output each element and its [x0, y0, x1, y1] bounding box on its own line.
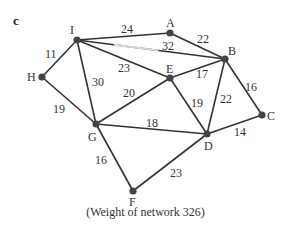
graph-canvas [0, 0, 291, 230]
node-label-E: E [166, 63, 173, 75]
edge-E-G [96, 78, 170, 124]
edge-weight-B-D: 22 [220, 93, 232, 105]
node-F [129, 187, 136, 194]
edge-weight-I-H: 11 [45, 48, 57, 60]
node-label-C: C [267, 110, 275, 122]
edge-weight-E-G: 20 [123, 87, 135, 99]
edge-weight-B-C: 16 [245, 81, 257, 93]
node-G [92, 120, 99, 127]
network-weight-caption: (Weight of network 326) [0, 205, 291, 220]
edge-weight-E-D: 19 [191, 97, 203, 109]
node-label-B: B [228, 45, 236, 57]
edge-weight-E-B: 17 [196, 68, 208, 80]
edge-F-D [133, 134, 207, 191]
node-label-G: G [88, 131, 97, 143]
edge-weight-I-G: 30 [92, 76, 104, 88]
edge-weight-D-C: 14 [234, 126, 246, 138]
node-A [166, 29, 173, 36]
edge-faded-segment [114, 45, 158, 51]
edge-weight-F-D: 23 [170, 167, 182, 179]
edge-weight-I-B: 32 [162, 40, 174, 52]
network-diagram: c 24223223113017201922161918141623IABEHC… [0, 0, 291, 230]
edge-H-G [42, 77, 96, 124]
node-label-A: A [166, 17, 175, 29]
node-H [38, 73, 45, 80]
edge-weight-A-B: 22 [197, 33, 209, 45]
edge-weight-G-F: 16 [95, 154, 107, 166]
node-I [73, 36, 80, 43]
edge-weight-H-G: 19 [53, 103, 65, 115]
node-label-D: D [204, 140, 213, 152]
node-label-H: H [27, 71, 36, 83]
node-label-I: I [70, 24, 74, 36]
node-C [258, 111, 265, 118]
edge-weight-G-D: 18 [146, 117, 158, 129]
edge-weight-I-A: 24 [121, 23, 133, 35]
edge-weight-I-E: 23 [118, 62, 130, 74]
node-D [203, 130, 210, 137]
